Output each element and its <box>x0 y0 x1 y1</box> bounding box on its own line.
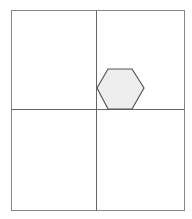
quadrant-diagram <box>0 0 192 219</box>
outer-frame <box>12 11 185 211</box>
